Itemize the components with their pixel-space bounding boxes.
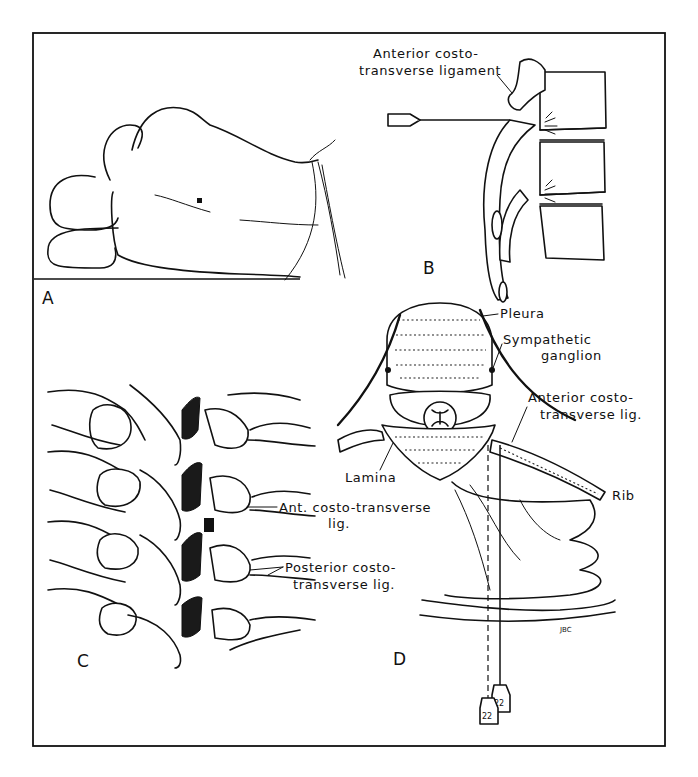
subcutaneous-fat: [422, 600, 615, 610]
rib-lower: [500, 190, 528, 262]
rib-left: [338, 430, 384, 452]
needle-b-hub: [388, 114, 420, 126]
panel-c-label: C: [77, 651, 89, 671]
leader-lamina: [380, 443, 393, 470]
label-c-post-line2: transverse lig.: [293, 577, 395, 592]
injection-site-marker: [197, 198, 202, 203]
lamina: [382, 425, 495, 480]
label-d-anterior-line2: transverse lig.: [540, 407, 642, 422]
paraspinal-muscles: [445, 482, 601, 599]
rib-right: [490, 440, 605, 500]
sympathetic-ganglion-right: [489, 367, 495, 373]
sympathetic-ganglion-left: [385, 367, 391, 373]
patient-head-lower: [48, 228, 118, 268]
label-c-post-line1: Posterior costo-: [285, 560, 396, 575]
needle-c-hub: [204, 518, 214, 532]
leader-b-anterior: [497, 75, 512, 93]
vertebra-level-2: [48, 451, 315, 540]
spine-line: [155, 195, 210, 212]
leader-pleura: [483, 314, 498, 316]
vertebral-body-upper: [540, 72, 606, 130]
label-d-rib: Rib: [612, 488, 635, 503]
artist-signature: JBC: [559, 626, 572, 634]
label-b-anterior-line1: Anterior costo-: [373, 46, 478, 61]
panel-a: A: [34, 107, 345, 308]
panel-b: Anterior costo- transverse ligament B: [359, 46, 606, 302]
patient-head-upper: [50, 176, 118, 230]
intervertebral-disc-upper: [540, 128, 605, 140]
nerve-block-figure: A Anterior costo- transverse ligament B: [0, 0, 698, 777]
skin-line: [420, 612, 615, 621]
panel-a-label: A: [42, 288, 54, 308]
label-c-ant-line1: Ant. costo-transverse: [279, 500, 431, 515]
leader-c-post: [250, 567, 283, 575]
leader-anterior-d: [512, 407, 527, 442]
vertebral-body-lower: [540, 206, 604, 260]
rib-cut-upper: [492, 211, 502, 239]
label-d-sympathetic-line1: Sympathetic: [503, 332, 592, 347]
vertebral-body-cross-section: [387, 303, 492, 393]
panel-d-label: D: [393, 649, 406, 669]
panel-b-label: B: [423, 258, 435, 278]
label-c-ant-line2: lig.: [328, 516, 350, 531]
vertebral-body-middle: [540, 142, 605, 195]
label-d-lamina: Lamina: [345, 470, 396, 485]
label-d-sympathetic-line2: ganglion: [541, 348, 602, 363]
needle-d-gauge-2: 22: [482, 712, 492, 721]
rib-cut-lower: [499, 282, 507, 302]
rib-line: [240, 220, 318, 225]
label-b-anterior-line2: transverse ligament: [359, 63, 501, 78]
panel-c: Ant. costo-transverse lig. Posterior cos…: [48, 385, 431, 671]
patient-shoulder: [104, 125, 142, 180]
label-d-pleura: Pleura: [500, 306, 545, 321]
vertebra-level-1: [48, 385, 315, 465]
label-d-anterior-line1: Anterior costo-: [528, 390, 633, 405]
